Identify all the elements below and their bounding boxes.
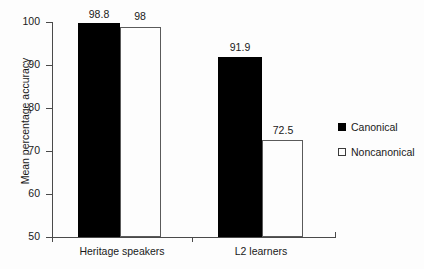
y-tick-label-50: 50: [0, 230, 40, 242]
y-tick-label-60: 60: [0, 187, 40, 199]
bar-value-heritage-canonical: 98.8: [89, 8, 109, 20]
y-tick-label-100: 100: [0, 15, 40, 27]
legend-label-canonical: Canonical: [351, 121, 398, 133]
x-tick-label-l2-learners: L2 learners: [235, 245, 288, 257]
legend-label-noncanonical: Noncanonical: [351, 146, 415, 158]
bar-heritage-noncanonical: [120, 27, 161, 237]
y-tick-90: [46, 65, 52, 66]
y-tick-100: [46, 22, 52, 23]
bar-value-l2-noncanonical: 72.5: [273, 124, 293, 136]
bar-chart: Mean percentage accuracy 100 90 80 70 60…: [0, 0, 424, 269]
hollow-square-icon: [338, 148, 346, 156]
y-tick-70: [46, 151, 52, 152]
y-axis-line: [52, 22, 53, 238]
y-tick-80: [46, 108, 52, 109]
bar-value-heritage-noncanonical: 98: [134, 10, 146, 22]
x-tick-end: [335, 232, 336, 238]
filled-square-icon: [338, 123, 346, 131]
legend-item-noncanonical: Noncanonical: [338, 146, 415, 158]
bar-l2-noncanonical: [262, 140, 303, 237]
y-tick-label-70: 70: [0, 144, 40, 156]
x-axis-line: [52, 237, 336, 238]
bar-value-l2-canonical: 91.9: [230, 41, 250, 53]
legend: Canonical Noncanonical: [338, 121, 415, 171]
bar-l2-canonical: [218, 57, 262, 237]
x-tick-label-heritage-speakers: Heritage speakers: [79, 245, 164, 257]
y-tick-label-80: 80: [0, 101, 40, 113]
x-tick-group-separator: [192, 237, 193, 242]
bar-heritage-canonical: [78, 23, 120, 237]
x-tick-start: [52, 237, 53, 242]
legend-item-canonical: Canonical: [338, 121, 415, 133]
y-tick-60: [46, 194, 52, 195]
y-tick-label-90: 90: [0, 58, 40, 70]
